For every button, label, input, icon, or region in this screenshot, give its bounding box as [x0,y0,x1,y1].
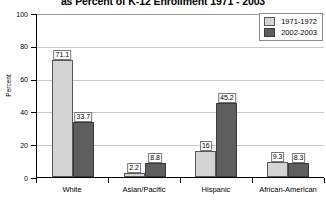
y-axis-tick-label: 20 [4,142,28,149]
bar-value-label: 16 [200,141,212,151]
y-axis-tick-label: 60 [4,76,28,83]
chart-legend: 1971-1972 2002-2003 [259,13,323,41]
bar-group: 1645.2 [181,14,253,177]
x-axis-tick-mark [36,178,37,183]
x-axis-category-label: White [36,185,108,194]
bar-slot: 8.8 [145,14,166,177]
bar-group: 71.133.7 [37,14,109,177]
legend-swatch-icon [264,28,275,37]
bar[interactable]: 71.1 [52,60,73,177]
legend-item-label: 2002-2003 [281,29,317,37]
bar-value-label: 8.8 [148,153,162,163]
bar[interactable]: 9.3 [267,162,288,177]
bar-slot: 2.2 [124,14,145,177]
bar-slot: 16 [195,14,216,177]
x-axis-label-group: WhiteAsian/PacificHispanicAfrican-Americ… [36,185,324,194]
bar-slot: 45.2 [216,14,237,177]
bar[interactable]: 8.8 [145,163,166,177]
x-axis-tick-mark [252,178,253,183]
y-axis-tick-label: 80 [4,43,28,50]
y-axis-tick-label: 40 [4,109,28,116]
bar-group: 2.28.8 [109,14,181,177]
bar[interactable]: 8.3 [288,163,309,177]
bar-slot: 33.7 [73,14,94,177]
bar-value-label: 33.7 [75,112,93,122]
bar[interactable]: 16 [195,151,216,177]
x-axis-category-label: African-American [252,185,324,194]
bar-value-label: 2.2 [127,163,141,173]
x-axis-tick-group [36,178,324,184]
bar-chart: as Percent of K-12 Enrollment 1971 - 200… [0,0,326,201]
y-axis-title: Percent [5,64,12,108]
x-axis-tick-mark [108,178,109,183]
y-axis-tick-label: 100 [4,11,28,18]
legend-item: 2002-2003 [264,28,317,37]
bar[interactable]: 33.7 [73,122,94,177]
chart-title: as Percent of K-12 Enrollment 1971 - 200… [0,0,326,7]
legend-item-label: 1971-1972 [281,18,317,26]
bar-value-label: 8.3 [292,153,306,163]
bar-slot: 71.1 [52,14,73,177]
bar-value-label: 45.2 [218,93,236,103]
x-axis-category-label: Hispanic [180,185,252,194]
x-axis-category-label: Asian/Pacific [108,185,180,194]
y-axis-tick-label: 0 [4,175,28,182]
bar-value-label: 71.1 [54,50,72,60]
bar-value-label: 9.3 [271,152,285,162]
legend-swatch-icon [264,17,275,26]
x-axis-tick-mark [180,178,181,183]
x-axis-tick-mark [324,178,325,183]
bar[interactable]: 45.2 [216,103,237,177]
bar[interactable]: 2.2 [124,173,145,177]
legend-item: 1971-1972 [264,17,317,26]
